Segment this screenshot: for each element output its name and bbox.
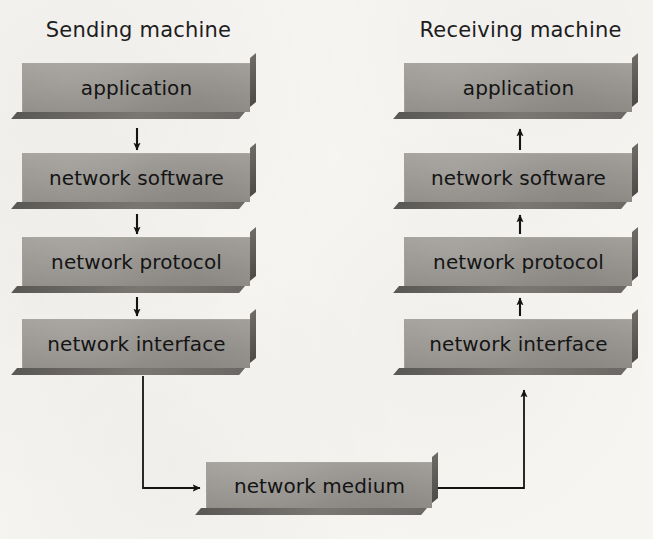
- network-medium-box[interactable]: network medium: [206, 462, 432, 508]
- slab-side-face: [250, 143, 256, 197]
- slab-face: network interface: [22, 319, 250, 368]
- sending-layer-application[interactable]: application: [22, 63, 250, 112]
- slab-bottom-face: [393, 368, 627, 375]
- slab-side-face: [632, 143, 638, 197]
- slab-side-face: [632, 309, 638, 363]
- receiving-layer-network-interface-label: network interface: [429, 332, 607, 356]
- diagram-canvas: Sending machine Receiving machine applic…: [0, 0, 653, 539]
- sending-layer-network-protocol-label: network protocol: [51, 250, 222, 274]
- slab-face: network software: [404, 153, 632, 202]
- slab-bottom-face: [393, 112, 627, 119]
- receiving-layer-network-software-label: network software: [431, 166, 606, 190]
- slab-side-face: [432, 452, 438, 503]
- slab-bottom-face: [11, 202, 245, 209]
- sending-layer-network-software[interactable]: network software: [22, 153, 250, 202]
- slab-side-face: [250, 309, 256, 363]
- slab-side-face: [632, 227, 638, 281]
- slab-bottom-face: [11, 286, 245, 293]
- slab-face: network protocol: [404, 237, 632, 286]
- slab-face: network interface: [404, 319, 632, 368]
- receiving-layer-network-protocol[interactable]: network protocol: [404, 237, 632, 286]
- slab-side-face: [250, 53, 256, 107]
- receiving-machine-title: Receiving machine: [404, 18, 637, 42]
- slab-bottom-face: [195, 508, 427, 515]
- sending-layer-network-protocol[interactable]: network protocol: [22, 237, 250, 286]
- slab-face: network protocol: [22, 237, 250, 286]
- slab-bottom-face: [11, 112, 245, 119]
- sending-layer-application-label: application: [81, 76, 192, 100]
- receiving-layer-network-interface[interactable]: network interface: [404, 319, 632, 368]
- slab-bottom-face: [393, 286, 627, 293]
- sending-layer-network-software-label: network software: [49, 166, 224, 190]
- sending-layer-network-interface[interactable]: network interface: [22, 319, 250, 368]
- sending-machine-title: Sending machine: [22, 18, 255, 42]
- slab-bottom-face: [11, 368, 245, 375]
- medium-to-receiving-interface-connector: [438, 390, 524, 488]
- slab-face: application: [404, 63, 632, 112]
- sending-layer-network-interface-label: network interface: [47, 332, 225, 356]
- network-medium-label: network medium: [234, 474, 405, 498]
- slab-face: network medium: [206, 462, 432, 508]
- slab-face: network software: [22, 153, 250, 202]
- receiving-layer-application-label: application: [463, 76, 574, 100]
- receiving-layer-application[interactable]: application: [404, 63, 632, 112]
- sending-interface-to-medium-connector: [143, 376, 200, 488]
- slab-side-face: [250, 227, 256, 281]
- slab-face: application: [22, 63, 250, 112]
- slab-bottom-face: [393, 202, 627, 209]
- slab-side-face: [632, 53, 638, 107]
- receiving-layer-network-software[interactable]: network software: [404, 153, 632, 202]
- receiving-layer-network-protocol-label: network protocol: [433, 250, 604, 274]
